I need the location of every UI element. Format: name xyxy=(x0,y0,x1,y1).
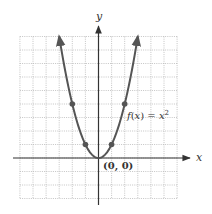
parabola-graph: y x (0, 0) f(x) = x2 xyxy=(0,0,212,214)
y-axis-label: y xyxy=(95,10,103,23)
function-label: f(x) = x2 xyxy=(126,109,169,121)
curve-right-branch xyxy=(99,37,138,159)
data-point xyxy=(83,142,89,148)
curve-left-branch xyxy=(59,37,98,159)
origin-label: (0, 0) xyxy=(103,160,133,172)
function-label-exponent: 2 xyxy=(165,109,169,117)
data-point xyxy=(122,101,128,107)
x-axis-label: x xyxy=(196,151,203,164)
data-point xyxy=(109,142,115,148)
data-point xyxy=(70,101,76,107)
function-label-close: ) = xyxy=(140,110,159,121)
